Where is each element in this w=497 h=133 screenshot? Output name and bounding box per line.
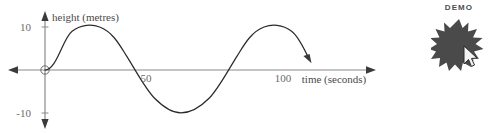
y-axis-label: height (metres) [52,11,119,24]
sine-wave-chart: 10 -10 50 100 height (metres) time (seco… [0,0,497,133]
chart-page: 10 -10 50 100 height (metres) time (seco… [0,0,497,133]
snowflake-outer [431,19,484,71]
x-axis-right-arrowhead [366,66,376,74]
y-axis-top-arrowhead [41,11,48,21]
curve-end-arrowhead [303,54,311,63]
x-axis-left-arrowhead [8,66,18,74]
koch-snowflake-icon [431,16,487,74]
demo-label: DEMO [424,3,494,13]
x-tick-label-50: 50 [141,72,153,84]
x-tick-label-100: 100 [275,72,292,84]
demo-watermark: DEMO [424,3,494,83]
y-tick-label-10: 10 [20,21,32,33]
y-tick-label-minus-10: -10 [16,107,31,119]
y-axis-bottom-arrowhead [41,119,48,129]
x-axis-label: time (seconds) [302,73,367,86]
koch-snowflake-graphic [431,16,487,74]
height-curve [45,25,309,113]
